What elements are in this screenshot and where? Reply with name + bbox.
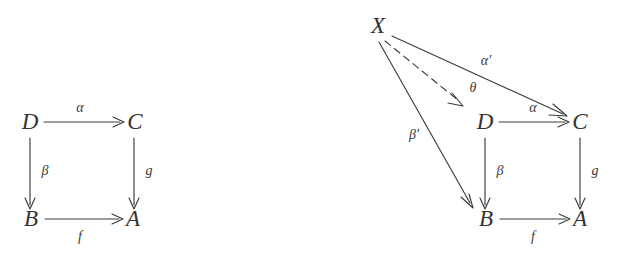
node-b-right: B: [479, 206, 493, 231]
left-diagram: α β g f D C B A: [21, 100, 153, 244]
arrowhead-x-to-b: [461, 194, 473, 208]
edge-label-beta: β: [41, 163, 49, 178]
edge-d-to-b-right: β: [480, 138, 504, 209]
node-c-right: C: [572, 109, 588, 134]
node-x: X: [370, 13, 386, 38]
edge-c-to-a-right: g: [575, 138, 599, 209]
edge-line-x-to-b: [379, 42, 470, 203]
node-c: C: [127, 109, 143, 134]
edge-line-x-to-c: [392, 36, 563, 114]
edge-c-to-a: g: [129, 138, 153, 209]
edge-label-g: g: [146, 163, 153, 178]
edge-label-g-right: g: [592, 163, 599, 178]
edge-label-f: f: [78, 229, 84, 244]
edge-label-alpha-prime: α′: [481, 53, 492, 68]
edge-b-to-a: f: [45, 214, 123, 244]
edge-d-to-c-right: α: [499, 100, 569, 127]
node-a: A: [124, 206, 141, 231]
edge-label-alpha-right: α: [529, 100, 537, 115]
arrowhead-x-to-d: [448, 93, 463, 106]
edge-d-to-b: β: [25, 138, 49, 209]
edge-label-alpha: α: [76, 100, 84, 115]
node-d-right: D: [476, 109, 494, 134]
edge-label-beta-right: β: [496, 163, 504, 178]
edge-label-f-right: f: [531, 229, 537, 244]
edge-b-to-a-right: f: [500, 214, 570, 244]
node-a-right: A: [571, 206, 588, 231]
edge-label-beta-prime: β′: [408, 127, 420, 142]
right-diagram: α′ θ β′ α: [370, 13, 599, 244]
edge-label-theta: θ: [470, 80, 477, 95]
arrowhead-x-to-c: [549, 104, 567, 116]
edge-x-to-c: α′: [392, 36, 567, 116]
node-d: D: [21, 109, 39, 134]
edge-d-to-c: α: [44, 100, 124, 127]
diagram-canvas: α β g f D C B A: [0, 0, 626, 257]
edge-x-to-d: θ: [385, 41, 477, 106]
commutative-diagram-figure: α β g f D C B A: [0, 0, 626, 257]
node-b: B: [24, 206, 38, 231]
